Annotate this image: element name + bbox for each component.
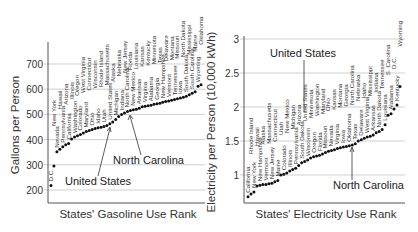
data-point bbox=[147, 104, 150, 107]
data-point bbox=[324, 151, 327, 154]
data-point bbox=[306, 159, 309, 162]
state-label: D.C. bbox=[47, 169, 54, 182]
data-point bbox=[342, 146, 345, 149]
data-point bbox=[91, 128, 94, 131]
data-point bbox=[197, 85, 200, 88]
data-point bbox=[138, 107, 141, 110]
data-point bbox=[52, 165, 55, 168]
tick-1.5: 1.5 bbox=[225, 136, 239, 147]
data-point bbox=[348, 144, 351, 147]
state-label: Oklahoma bbox=[197, 16, 204, 45]
data-point bbox=[345, 145, 348, 148]
data-point bbox=[191, 92, 194, 95]
tick-200: 200 bbox=[26, 185, 43, 196]
data-point bbox=[258, 184, 261, 187]
data-point bbox=[318, 154, 321, 157]
data-point bbox=[294, 167, 297, 170]
data-point bbox=[105, 124, 108, 127]
annotation-united-states: United States bbox=[65, 175, 132, 187]
data-point bbox=[173, 98, 176, 101]
data-point bbox=[200, 83, 203, 86]
data-point bbox=[97, 126, 100, 129]
data-point bbox=[288, 169, 291, 172]
data-point bbox=[129, 109, 132, 112]
data-point bbox=[369, 135, 372, 138]
data-point bbox=[94, 127, 97, 130]
data-point bbox=[144, 105, 147, 108]
data-point bbox=[108, 122, 111, 125]
data-point bbox=[152, 103, 155, 106]
data-point bbox=[327, 150, 330, 153]
data-point bbox=[167, 100, 170, 103]
data-point bbox=[185, 95, 188, 98]
data-point bbox=[252, 191, 255, 194]
tick-2.5: 2.5 bbox=[225, 68, 239, 79]
data-point bbox=[73, 136, 76, 139]
tick-500: 500 bbox=[26, 109, 43, 120]
data-point bbox=[141, 105, 144, 108]
data-point bbox=[247, 195, 250, 198]
data-point bbox=[155, 102, 158, 105]
data-point bbox=[61, 145, 64, 148]
state-label: Kentucky bbox=[393, 75, 400, 101]
tick-300: 300 bbox=[26, 160, 43, 171]
data-point bbox=[315, 154, 318, 157]
data-point bbox=[120, 113, 123, 116]
data-point bbox=[161, 101, 164, 104]
data-point bbox=[270, 182, 273, 185]
data-point bbox=[378, 130, 381, 133]
data-point bbox=[282, 173, 285, 176]
annotation-north-carolina: North Carolina bbox=[333, 179, 405, 191]
data-point bbox=[55, 150, 58, 153]
data-point bbox=[360, 138, 363, 141]
data-point bbox=[150, 104, 153, 107]
x-axis-label: States' Gasoline Use Rank bbox=[59, 208, 196, 220]
data-point bbox=[351, 144, 354, 147]
data-point bbox=[102, 125, 105, 128]
data-point bbox=[182, 96, 185, 99]
data-point bbox=[336, 147, 339, 150]
data-point bbox=[179, 97, 182, 100]
data-point bbox=[176, 97, 179, 100]
data-point bbox=[123, 111, 126, 114]
state-label: Wyoming bbox=[194, 56, 201, 82]
data-point bbox=[85, 130, 88, 133]
data-point bbox=[372, 133, 375, 136]
data-point bbox=[285, 171, 288, 174]
data-point bbox=[312, 155, 315, 158]
data-point bbox=[82, 132, 85, 135]
data-point bbox=[303, 160, 306, 163]
data-point bbox=[100, 126, 103, 129]
data-point bbox=[126, 110, 129, 113]
data-point bbox=[79, 133, 82, 136]
tick-1: 1 bbox=[233, 170, 239, 181]
data-point bbox=[366, 135, 369, 138]
state-label: Wyoming bbox=[396, 20, 403, 46]
data-point bbox=[354, 142, 357, 145]
electricity-chart: 3 2.5 2 1.5 1 Electricity per Person (10… bbox=[205, 20, 405, 220]
annotation-north-carolina: North Carolina bbox=[113, 154, 185, 166]
data-point bbox=[300, 161, 303, 164]
data-point bbox=[261, 183, 264, 186]
data-point bbox=[111, 120, 114, 123]
tick-400: 400 bbox=[26, 135, 43, 146]
data-point bbox=[384, 123, 387, 126]
data-point bbox=[170, 99, 173, 102]
gasoline-chart: 700 600 500 400 300 200 Gallons per Pers… bbox=[9, 16, 205, 220]
data-point bbox=[264, 183, 267, 186]
data-point bbox=[339, 146, 342, 149]
tick-2: 2 bbox=[233, 102, 239, 113]
annotation-united-states: United States bbox=[270, 47, 337, 59]
tick-600: 600 bbox=[26, 84, 43, 95]
tick-700: 700 bbox=[26, 59, 43, 70]
data-point bbox=[50, 184, 53, 187]
data-point bbox=[158, 102, 161, 105]
y-axis-label: Electricity per Person (10,000 kWh) bbox=[205, 31, 217, 212]
charts-canvas: 700 600 500 400 300 200 Gallons per Pers… bbox=[0, 0, 418, 232]
x-axis-label: States' Electricity Use Rank bbox=[256, 208, 397, 220]
data-point bbox=[321, 152, 324, 155]
tick-3: 3 bbox=[233, 34, 239, 45]
state-label: D.C. bbox=[390, 56, 397, 69]
data-point bbox=[267, 182, 270, 185]
data-point bbox=[194, 90, 197, 93]
